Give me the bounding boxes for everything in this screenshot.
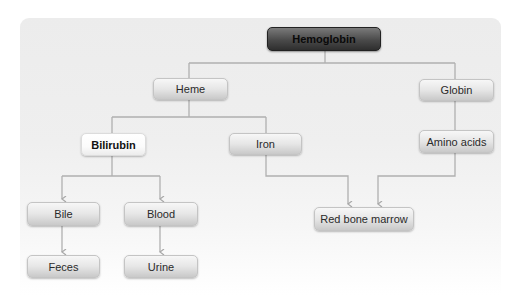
node-bile: Bile [27, 202, 100, 226]
node-hemoglobin: Hemoglobin [267, 27, 381, 51]
node-feces: Feces [27, 255, 100, 278]
node-blood: Blood [124, 202, 198, 226]
node-amino-acids: Amino acids [419, 130, 494, 153]
node-heme: Heme [153, 78, 228, 100]
node-urine: Urine [124, 255, 198, 278]
node-red-bone-marrow: Red bone marrow [314, 207, 414, 231]
node-globin: Globin [419, 79, 494, 101]
node-bilirubin: Bilirubin [81, 133, 146, 156]
node-iron: Iron [229, 133, 302, 155]
